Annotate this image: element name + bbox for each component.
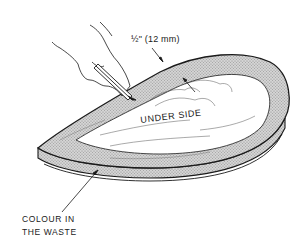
callout-label-line1: COLOUR IN	[22, 215, 75, 224]
callout-label-line2: THE WASTE	[22, 228, 77, 237]
measurement-label: ½" (12 mm)	[131, 35, 180, 44]
pencil-icon	[94, 64, 136, 100]
callout-leader	[62, 170, 98, 212]
